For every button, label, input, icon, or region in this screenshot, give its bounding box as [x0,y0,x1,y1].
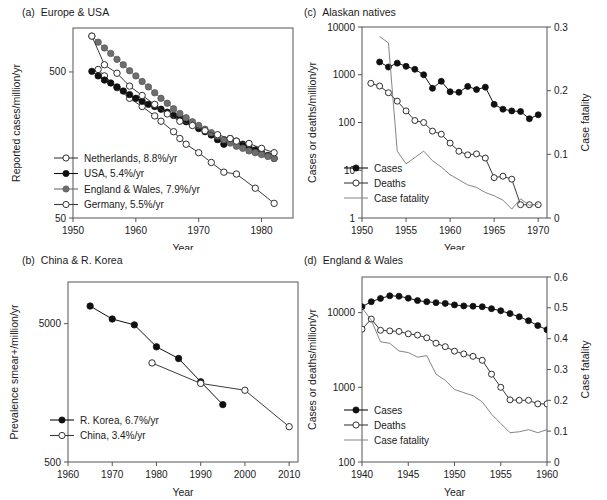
panel-b-china-korea: (b)China & R. Korea 19601970198019902000… [0,250,310,500]
data-point [233,138,239,144]
data-point [489,371,495,377]
y-right-tick-label: 0.1 [554,426,568,437]
chart-a: 195019601970198050500YearReported cases/… [0,0,310,250]
data-point [258,151,264,157]
data-point [378,295,384,301]
data-point [233,171,239,177]
legend-marker [63,201,69,207]
x-tick-label: 2000 [234,469,257,480]
y-axis-title: Prevalence smear+/million/yr [8,304,20,440]
y-tick-label: 1000 [333,382,356,393]
legend-marker [63,186,69,192]
data-point [421,72,427,78]
data-point [491,101,497,107]
x-tick-label: 1970 [188,225,211,236]
panel-d-title: (d)England & Wales [304,254,403,266]
data-point [265,153,271,159]
data-point [240,145,246,151]
y-right-tick-label: 0.5 [554,302,568,313]
legend-item: R. Korea, 6.7%/yr [50,415,160,426]
data-point [442,300,448,306]
data-point [131,322,137,328]
data-point [126,91,132,97]
data-point [424,299,430,305]
data-point [535,401,541,407]
data-point [474,151,480,157]
x-tick-label: 1955 [490,469,513,480]
data-point [175,355,181,361]
data-point [359,304,365,310]
data-point [509,108,515,114]
chart-c: 1950195519601965197011010010001000000.10… [300,0,607,250]
x-tick-label: 1950 [443,469,466,480]
data-point [221,169,227,175]
x-tick-label: 1960 [439,225,462,236]
data-point [433,300,439,306]
data-point [164,100,170,106]
data-point [158,95,164,101]
legend-label: Case fatality [374,193,429,204]
panel-b-label: (b) [22,254,35,266]
x-axis-title: Year [444,242,466,250]
series-line [152,363,289,427]
y-tick-label: 100 [338,457,355,468]
legend: CasesDeathsCase fatality [344,163,429,204]
y-axis-title: Cases or deaths/million/yr [306,309,318,430]
panel-d-label: (d) [304,254,317,266]
data-point [442,344,448,350]
data-point [461,303,467,309]
data-point [387,293,393,299]
data-point [456,148,462,154]
panel-b-title: (b)China & R. Korea [22,254,123,266]
data-point [359,326,365,332]
data-point [470,303,476,309]
data-point [368,299,374,305]
legend-item: USA, 5.4%/yr [54,168,145,179]
data-point [89,33,95,39]
data-point [377,59,383,65]
data-point [544,327,550,333]
y-tick-label: 100 [338,117,355,128]
series-0 [359,293,550,333]
data-point [139,92,145,98]
legend-item: Deaths [344,178,406,189]
x-tick-label: 1970 [527,225,550,236]
legend-item: Cases [344,405,402,416]
data-point [271,200,277,206]
legend-label: Netherlands, 8.8%/yr [84,153,178,164]
legend-marker [63,155,69,161]
data-point [526,318,532,324]
data-point [516,397,522,403]
legend-label: China, 3.4%/yr [80,430,146,441]
legend: R. Korea, 6.7%/yrChina, 3.4%/yr [50,415,160,442]
data-point [87,303,93,309]
data-point [438,78,444,84]
x-tick-label: 1940 [351,469,374,480]
panel-c-label: (c) [304,6,316,18]
data-point [108,80,114,86]
data-point [252,149,258,155]
legend-marker [59,432,65,438]
panel-c-alaskan-natives: (c)Alaskan natives 195019551960196519701… [300,0,607,250]
data-point [415,332,421,338]
data-point [415,298,421,304]
data-point [447,140,453,146]
y-tick-label: 50 [55,213,67,224]
x-tick-label: 1970 [101,469,124,480]
data-point [447,89,453,95]
x-tick-label: 1960 [125,225,148,236]
data-point [109,316,115,322]
x-axis-title: Year [444,486,466,498]
data-point [489,306,495,312]
legend-label: R. Korea, 6.7%/yr [80,415,160,426]
data-point [139,78,145,84]
chart-d: 1940194519501955196010010001000000.10.20… [300,250,607,500]
data-point [164,111,170,117]
legend-marker [59,417,65,423]
data-point [126,83,132,89]
legend-marker [353,422,359,428]
data-point [438,131,444,137]
data-point [197,380,203,386]
data-point [535,112,541,118]
x-tick-label: 1980 [145,469,168,480]
